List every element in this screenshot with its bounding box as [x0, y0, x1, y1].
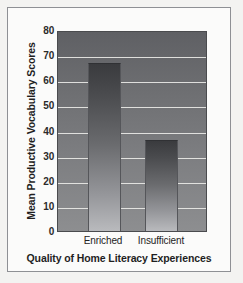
y-tick-label: 40 — [30, 127, 54, 137]
figure-root: Mean Productive Vocabulary Scores 80 70 … — [0, 0, 243, 283]
y-axis-tick-labels: 80 70 60 50 40 30 20 10 0 — [26, 31, 54, 232]
bar-insufficient — [145, 140, 178, 231]
plot-area — [57, 31, 207, 232]
y-tick-label: 60 — [30, 76, 54, 86]
y-tick-label: 50 — [30, 101, 54, 111]
y-tick-label: 20 — [30, 177, 54, 187]
x-axis-tick-labels: Enriched Insufficient — [57, 235, 207, 249]
x-axis-title: Quality of Home Literacy Experiences — [10, 252, 228, 264]
gridline-60 — [58, 82, 206, 83]
gridline-10 — [58, 208, 206, 209]
gridline-20 — [58, 183, 206, 184]
bar-chart: Mean Productive Vocabulary Scores 80 70 … — [0, 0, 243, 283]
y-tick-label: 70 — [30, 51, 54, 61]
gridline-30 — [58, 158, 206, 159]
bar-enriched — [88, 63, 121, 231]
gridline-50 — [58, 107, 206, 108]
y-tick-label: 0 — [30, 227, 54, 237]
y-tick-label: 10 — [30, 202, 54, 212]
y-tick-label: 30 — [30, 152, 54, 162]
y-tick-label: 80 — [30, 26, 54, 36]
x-tick-label-insufficient: Insufficient — [125, 235, 197, 246]
gridline-70 — [58, 57, 206, 58]
gridline-40 — [58, 133, 206, 134]
